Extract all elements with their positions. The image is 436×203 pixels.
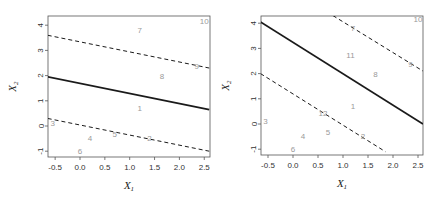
y-tick-label: 4 — [250, 20, 259, 25]
plot-frame — [48, 16, 210, 157]
y-tick-label: -1 — [37, 147, 46, 155]
y-tick-label: 1 — [37, 98, 46, 103]
chart-panel-right: -0.50.00.51.01.52.02.5-101234X1X21234567… — [219, 15, 424, 191]
point-label-10: 10 — [200, 17, 209, 26]
x-tick-label: 1.0 — [124, 163, 136, 172]
point-label-3: 3 — [263, 117, 268, 126]
point-label-1: 1 — [351, 102, 356, 111]
x-axis-title: X1 — [123, 179, 134, 193]
x-tick-label: 0.0 — [74, 163, 86, 172]
y-tick-label: 2 — [250, 71, 259, 76]
x-tick-label: 2.5 — [199, 163, 211, 172]
x-tick-label: 0.5 — [312, 161, 324, 170]
point-label-5: 5 — [113, 130, 118, 139]
x-tick-label: 2.0 — [174, 163, 186, 172]
point-label-1: 1 — [137, 104, 142, 113]
point-label-2: 2 — [361, 132, 366, 141]
chart-panel-left: -0.50.00.51.01.52.02.5-101234X1X21234567… — [6, 16, 210, 193]
point-label-2: 2 — [147, 134, 152, 143]
x-tick-label: -0.5 — [261, 161, 275, 170]
y-tick-label: 2 — [37, 73, 46, 78]
y-tick-label: 0 — [37, 123, 46, 128]
margin-lower-line — [48, 118, 210, 151]
hyperplane-line — [48, 77, 210, 110]
hyperplane-line — [261, 22, 424, 124]
x-tick-label: -0.5 — [48, 163, 62, 172]
y-tick-label: 1 — [250, 96, 259, 101]
margin-upper-line — [48, 35, 210, 68]
point-label-4: 4 — [88, 134, 93, 143]
x-tick-label: 1.5 — [149, 163, 161, 172]
point-label-9: 9 — [195, 62, 200, 71]
point-label-8: 8 — [160, 72, 165, 81]
point-label-11: 11 — [346, 51, 355, 60]
y-tick-label: 0 — [250, 121, 259, 126]
x-tick-label: 0.5 — [99, 163, 111, 172]
y-axis-title: X2 — [6, 81, 20, 93]
point-label-6: 6 — [291, 145, 296, 154]
point-label-3: 3 — [50, 119, 55, 128]
y-tick-label: 3 — [37, 48, 46, 53]
point-label-12: 12 — [319, 109, 328, 118]
x-tick-label: 1.0 — [337, 161, 349, 170]
point-label-9: 9 — [408, 60, 413, 69]
chart-canvas: -0.50.00.51.01.52.02.5-101234X1X21234567… — [0, 0, 436, 203]
point-label-6: 6 — [78, 147, 83, 156]
point-label-7: 7 — [351, 24, 356, 33]
point-label-7: 7 — [137, 26, 142, 35]
x-axis-title: X1 — [336, 177, 347, 191]
x-tick-label: 1.5 — [362, 161, 374, 170]
y-tick-label: -1 — [250, 145, 259, 153]
x-tick-label: 2.5 — [412, 161, 424, 170]
x-tick-label: 2.0 — [387, 161, 399, 170]
y-tick-label: 3 — [250, 46, 259, 51]
point-label-8: 8 — [373, 70, 378, 79]
x-tick-label: 0.0 — [287, 161, 299, 170]
point-label-10: 10 — [414, 15, 423, 24]
y-tick-label: 4 — [37, 22, 46, 27]
y-axis-title: X2 — [219, 80, 233, 92]
point-label-4: 4 — [301, 132, 306, 141]
point-label-5: 5 — [326, 128, 331, 137]
